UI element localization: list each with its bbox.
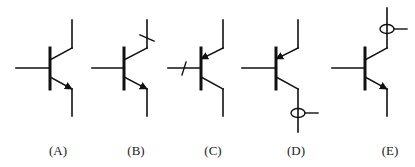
symbol-b-npn-transistor xyxy=(92,20,154,116)
label-d: (D) xyxy=(276,143,316,159)
symbol-d-pnp-transistor xyxy=(242,20,318,132)
label-a: (A) xyxy=(38,143,78,159)
symbol-c-pnp-transistor xyxy=(168,20,223,116)
symbol-a-npn-transistor xyxy=(16,20,72,116)
symbol-e-npn-transistor xyxy=(332,8,407,116)
label-c: (C) xyxy=(193,143,233,159)
label-e: (E) xyxy=(370,143,410,159)
label-b: (B) xyxy=(116,143,156,159)
transistor-diagram xyxy=(0,0,415,167)
